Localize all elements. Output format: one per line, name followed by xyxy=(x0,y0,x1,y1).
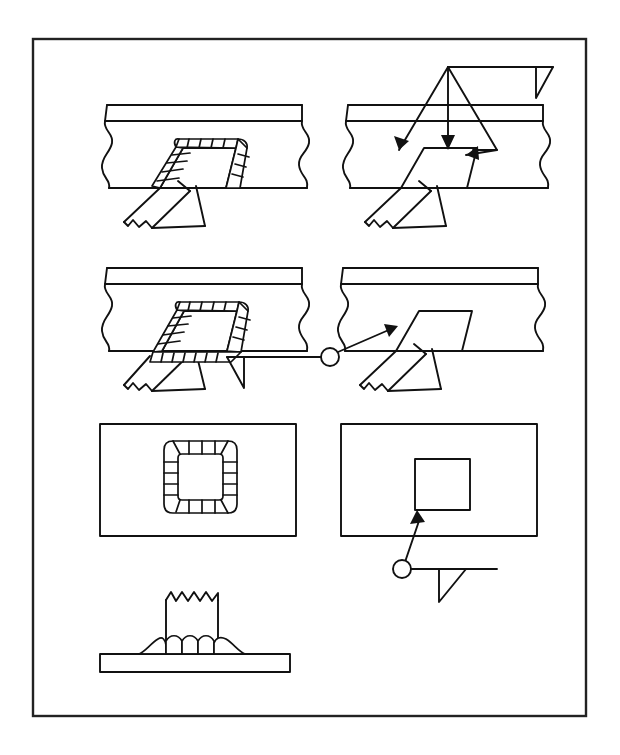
welding-figure-frame xyxy=(0,0,620,755)
square-slot xyxy=(178,454,223,500)
fillet-bead-seg3 xyxy=(182,636,198,654)
weld-all-around-circle xyxy=(321,348,339,366)
welding-illustration xyxy=(0,0,620,755)
weld-bead-top xyxy=(177,302,239,311)
weld-all-around-circle xyxy=(393,560,411,578)
weld-bead-top xyxy=(176,139,238,148)
square-slot xyxy=(415,459,470,510)
page-background xyxy=(0,0,620,755)
panel-bottom-left xyxy=(100,424,296,536)
fillet-bead-seg4 xyxy=(198,636,214,654)
fillet-bead-seg2 xyxy=(166,636,182,654)
